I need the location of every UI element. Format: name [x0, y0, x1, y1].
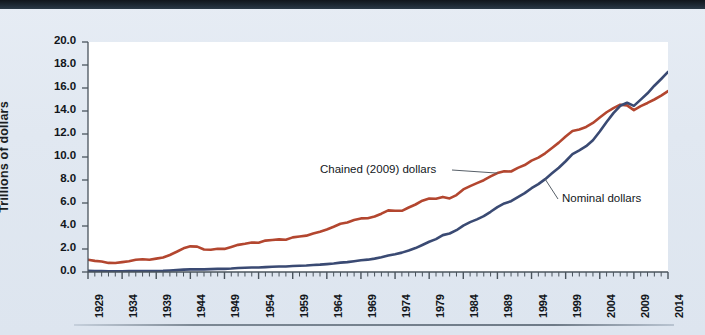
x-axis-tick-label: 1939: [161, 294, 173, 318]
x-axis-tick-label: 1974: [400, 294, 412, 318]
x-axis-tick-label: 1954: [264, 294, 276, 318]
x-axis-tick-label: 1944: [195, 294, 207, 318]
figure-container: Trillions of dollars 0.02.04.06.08.010.0…: [0, 0, 705, 335]
y-axis-tick-label: 0.0: [30, 264, 76, 276]
page-bottom-rule: [74, 324, 674, 326]
page-top-bar: [0, 0, 705, 9]
x-axis-tick-label: 1959: [298, 294, 310, 318]
x-axis-tick-label: 1929: [93, 294, 105, 318]
y-axis-tick-label: 4.0: [30, 218, 76, 230]
x-axis-tick-label: 1994: [537, 294, 549, 318]
line-chart-canvas: [88, 42, 668, 272]
y-axis-tick-label: 18.0: [30, 57, 76, 69]
x-axis-tick-label: 1964: [332, 294, 344, 318]
series-line-chained: [88, 91, 668, 263]
x-axis-tick-label: 1969: [366, 294, 378, 318]
annotation-chained-dollars: Chained (2009) dollars: [320, 163, 436, 175]
y-axis-tick-label: 6.0: [30, 195, 76, 207]
x-axis-tick-label: 1984: [468, 294, 480, 318]
y-axis-tick-label: 10.0: [30, 149, 76, 161]
x-axis-tick-label: 1949: [229, 294, 241, 318]
x-axis-tick-label: 2004: [605, 294, 617, 318]
y-axis-tick-label: 8.0: [30, 172, 76, 184]
y-axis-tick-label: 2.0: [30, 241, 76, 253]
x-axis-tick-label: 1999: [571, 294, 583, 318]
y-axis-tick-label: 16.0: [30, 80, 76, 92]
x-axis-tick-label: 1989: [502, 294, 514, 318]
y-axis-tick-label: 12.0: [30, 126, 76, 138]
x-axis-tick-label: 2014: [673, 294, 685, 318]
x-axis-tick-label: 1934: [127, 294, 139, 318]
y-axis-tick-label: 20.0: [30, 34, 76, 46]
x-axis-tick-label: 1979: [434, 294, 446, 318]
plot-area: [88, 42, 668, 272]
x-axis-tick-label: 2009: [639, 294, 651, 318]
annotation-nominal-dollars: Nominal dollars: [562, 192, 641, 204]
y-axis-label: Trillions of dollars: [0, 42, 15, 272]
y-axis-tick-label: 14.0: [30, 103, 76, 115]
